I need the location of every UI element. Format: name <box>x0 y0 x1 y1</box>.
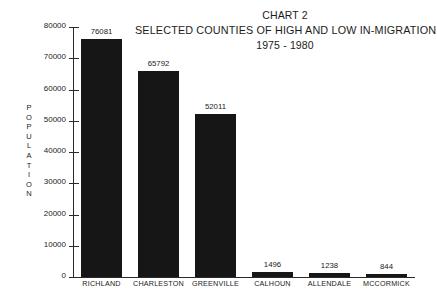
y-tick-mark <box>69 246 79 247</box>
y-axis-title: POPULATION <box>22 103 36 199</box>
y-tick-label: 20000 <box>44 209 66 218</box>
bar-value-label: 65792 <box>116 59 201 68</box>
y-axis-title-char-5: A <box>22 151 36 161</box>
y-axis-title-char-6: T <box>22 161 36 171</box>
y-tick-mark <box>69 277 79 278</box>
y-tick-label: 50000 <box>44 115 66 124</box>
y-tick-mark <box>69 215 79 216</box>
y-tick-mark <box>69 121 79 122</box>
y-tick-label: 30000 <box>44 177 66 186</box>
y-axis-title-char-8: O <box>22 180 36 190</box>
x-axis-category-label: MCCORMICK <box>340 279 433 288</box>
y-axis-title-char-0: P <box>22 103 36 113</box>
y-tick-mark <box>69 183 79 184</box>
bar-value-label: 52011 <box>173 102 258 111</box>
bar-group[interactable]: 65792CHARLESTON <box>138 27 179 277</box>
bar-value-label: 76081 <box>59 27 144 36</box>
y-axis-title-char-2: P <box>22 122 36 132</box>
y-tick-mark <box>69 90 79 91</box>
bar[interactable] <box>366 274 407 277</box>
y-tick-label: 70000 <box>44 52 66 61</box>
y-axis-title-char-1: O <box>22 113 36 123</box>
bar[interactable] <box>252 272 293 277</box>
bar[interactable] <box>309 273 350 277</box>
y-tick-label: 40000 <box>44 146 66 155</box>
y-axis-title-char-3: U <box>22 132 36 142</box>
y-tick-mark <box>69 152 79 153</box>
y-axis-title-char-4: L <box>22 141 36 151</box>
bar-group[interactable]: 1496CALHOUN <box>252 27 293 277</box>
y-axis-title-char-9: N <box>22 189 36 199</box>
bar[interactable] <box>81 39 122 277</box>
y-axis-title-char-7: I <box>22 170 36 180</box>
y-tick-label: 60000 <box>44 84 66 93</box>
bar-value-label: 844 <box>344 262 429 271</box>
chart-container: CHART 2 SELECTED COUNTIES OF HIGH AND LO… <box>0 0 437 303</box>
bar-group[interactable]: 52011GREENVILLE <box>195 27 236 277</box>
bar-group[interactable]: 844MCCORMICK <box>366 27 407 277</box>
chart-title-line-1: CHART 2 <box>135 8 435 23</box>
bar-group[interactable]: 1238ALLENDALE <box>309 27 350 277</box>
y-tick-label: 10000 <box>44 240 66 249</box>
bar[interactable] <box>195 114 236 277</box>
y-tick-mark <box>69 58 79 59</box>
plot-area: 0100002000030000400005000060000700008000… <box>73 27 415 277</box>
